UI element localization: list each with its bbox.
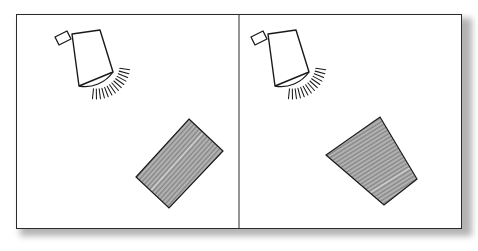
panel-right-hit-area[interactable] [239,15,461,228]
figure-root [0,0,478,251]
panel-left-hit-area[interactable] [17,15,239,228]
